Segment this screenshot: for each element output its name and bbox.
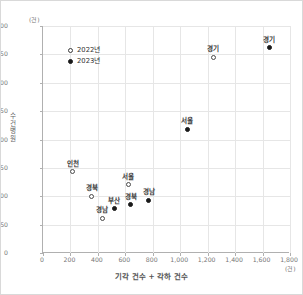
- filled-circle-icon: [68, 59, 73, 64]
- data-point[interactable]: [128, 202, 133, 207]
- legend-item-2022: 2022년: [68, 45, 100, 56]
- open-circle-icon: [68, 48, 73, 53]
- y-tick-label: 200: [0, 137, 8, 143]
- chart-legend: 2022년 2023년: [68, 45, 100, 67]
- y-tick-label: 300: [0, 80, 8, 86]
- y-tick-label: 100: [0, 193, 8, 199]
- legend-item-2023: 2023년: [68, 56, 100, 67]
- gridline-horizontal: [43, 26, 290, 27]
- y-tick-mark: [40, 111, 43, 112]
- gridline-horizontal: [43, 168, 290, 169]
- y-axis-unit-label: (건): [29, 17, 40, 23]
- data-point-label: 경기: [263, 37, 275, 44]
- y-tick-mark: [40, 83, 43, 84]
- y-tick-label: 350: [0, 51, 8, 57]
- gridline-horizontal: [43, 83, 290, 84]
- x-axis-unit-label: (건): [285, 266, 296, 272]
- data-point[interactable]: [126, 182, 131, 187]
- data-point[interactable]: [211, 55, 216, 60]
- data-point-label: 서울: [181, 118, 193, 125]
- data-point[interactable]: [89, 194, 94, 199]
- y-tick-mark: [40, 253, 43, 254]
- data-point[interactable]: [185, 127, 190, 132]
- y-tick-mark: [40, 225, 43, 226]
- data-point-label: 경남: [96, 207, 108, 214]
- y-tick-label: 50: [0, 222, 8, 228]
- data-point[interactable]: [70, 169, 75, 174]
- data-point-label: 경북: [86, 185, 98, 192]
- data-point-label: 경기: [207, 46, 219, 53]
- data-point-label: 경북: [125, 194, 137, 201]
- gridline-horizontal: [43, 196, 290, 197]
- gridline-vertical: [290, 26, 291, 253]
- y-axis-title: 수건 병원: [8, 113, 17, 143]
- data-point[interactable]: [100, 216, 105, 221]
- scatter-chart-figure: 인천경북경남서울경기부산경북경남서울경기 (건) (건) 수건 병원 기각 건수…: [0, 0, 303, 295]
- legend-label-2023: 2023년: [77, 58, 100, 65]
- gridline-horizontal: [43, 111, 290, 112]
- gridline-horizontal: [43, 140, 290, 141]
- gridline-horizontal: [43, 225, 290, 226]
- y-tick-label: 150: [0, 165, 8, 171]
- data-point-label: 부산: [108, 198, 120, 205]
- y-tick-label: 400: [0, 23, 8, 29]
- legend-label-2022: 2022년: [77, 47, 100, 54]
- y-tick-mark: [40, 140, 43, 141]
- y-tick-mark: [40, 26, 43, 27]
- data-point-label: 서울: [122, 174, 134, 181]
- data-point[interactable]: [112, 206, 117, 211]
- y-tick-mark: [40, 54, 43, 55]
- y-tick-label: 250: [0, 108, 8, 114]
- data-point-label: 경남: [143, 189, 155, 196]
- data-point[interactable]: [267, 45, 272, 50]
- y-tick-mark: [40, 168, 43, 169]
- data-point-label: 인천: [67, 161, 79, 168]
- x-tick-label: 1,800: [269, 257, 303, 263]
- data-point[interactable]: [146, 198, 151, 203]
- y-tick-mark: [40, 196, 43, 197]
- y-tick-label: 0: [0, 250, 8, 256]
- x-axis-title: 기각 건수 + 각하 건수: [1, 273, 302, 281]
